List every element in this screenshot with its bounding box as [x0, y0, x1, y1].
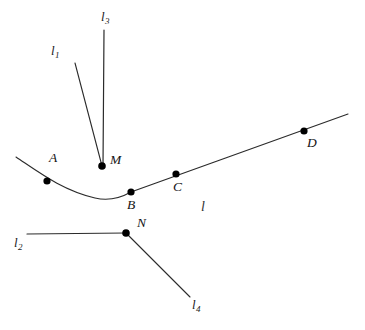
- point-label-D: D: [307, 136, 317, 150]
- line-l2: [27, 233, 126, 234]
- geometry-diagram: l1l3l2l4 ABCDMN l: [0, 0, 365, 330]
- line-l3: [103, 30, 104, 166]
- point-M: [98, 162, 106, 170]
- line-label-l1: l1: [51, 44, 60, 60]
- point-label-A: A: [49, 151, 57, 165]
- point-label-B: B: [127, 198, 135, 212]
- line-label-l4: l4: [192, 298, 201, 314]
- point-D: [300, 127, 307, 134]
- point-A: [43, 177, 50, 184]
- line-l1: [75, 63, 102, 166]
- line-label-l2: l2: [14, 236, 23, 252]
- point-label-M: M: [110, 153, 121, 167]
- point-label-C: C: [173, 180, 182, 194]
- point-N: [122, 229, 130, 237]
- curve-name-label: l: [201, 200, 205, 214]
- line-l4: [126, 233, 190, 297]
- line-label-l3: l3: [101, 10, 110, 26]
- point-C: [172, 170, 179, 177]
- point-B: [127, 188, 134, 195]
- point-label-N: N: [137, 216, 146, 230]
